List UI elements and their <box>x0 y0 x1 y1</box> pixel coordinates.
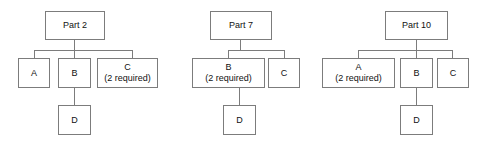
connector-root-stem <box>416 40 417 50</box>
tree-part-10: Part 10 A (2 required) B C D <box>0 0 489 154</box>
connector-drop-b <box>416 50 417 58</box>
connector-bus-bar <box>358 50 452 51</box>
node-label: D <box>413 115 420 126</box>
connector-drop-c <box>452 50 453 58</box>
connector-drop-a <box>358 50 359 58</box>
node-a[interactable]: A (2 required) <box>322 58 395 88</box>
node-part-10-root[interactable]: Part 10 <box>385 11 448 40</box>
node-c[interactable]: C <box>437 58 469 88</box>
node-label: B <box>413 68 419 79</box>
bom-diagram: Part 2 A B C (2 required) D Part 7 <box>0 0 489 154</box>
node-qty-note: (2 required) <box>335 73 382 84</box>
node-label: Part 10 <box>402 20 431 31</box>
connector-b-to-d <box>416 88 417 105</box>
node-label: A <box>355 62 361 73</box>
node-label: C <box>450 68 457 79</box>
node-d[interactable]: D <box>400 105 433 135</box>
node-b[interactable]: B <box>400 58 433 88</box>
